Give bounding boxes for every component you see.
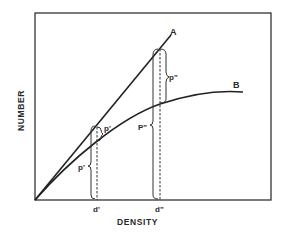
p1-lower-label: p' (78, 163, 85, 172)
p1-upper-label: p' (104, 124, 111, 133)
p2-upper-label: p" (169, 73, 178, 82)
brace-p2-upper (160, 49, 169, 103)
brace-p2-lower (150, 49, 158, 199)
curve-b-label: B (233, 80, 240, 90)
line-a (35, 35, 171, 200)
brace-p1-lower (88, 126, 95, 199)
x-tick-d2: d" (155, 205, 164, 214)
p2-lower-label: P" (138, 123, 147, 132)
density-number-diagram: A B p' p' P" p" d' d" DENSITY NUMBER (0, 0, 283, 234)
y-axis-label: NUMBER (16, 90, 26, 131)
line-a-label: A (170, 27, 177, 37)
x-axis-label: DENSITY (117, 217, 158, 227)
x-tick-d1: d' (93, 205, 100, 214)
curve-b (35, 92, 243, 201)
